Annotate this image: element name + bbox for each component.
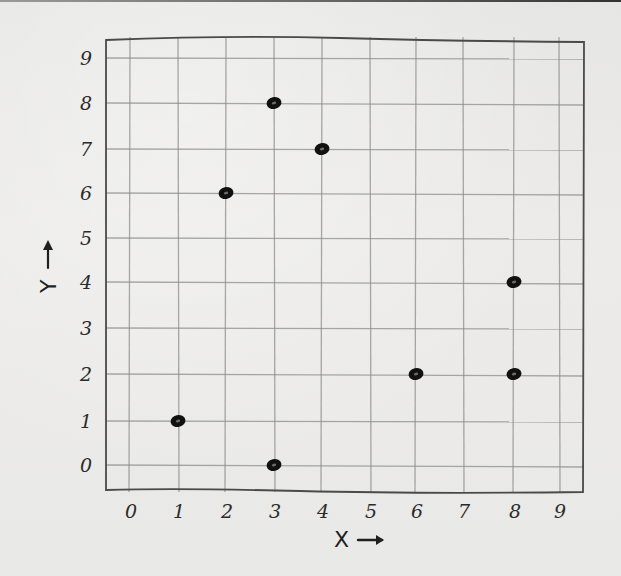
x-axis-arrow-icon bbox=[358, 535, 384, 545]
y-tick-labels: 0123456789 bbox=[79, 47, 93, 476]
data-point bbox=[169, 414, 186, 429]
x-axis-label: X bbox=[334, 527, 349, 552]
y-gridline bbox=[106, 465, 584, 467]
y-axis-arrow-icon bbox=[43, 240, 53, 268]
y-tick-label: 3 bbox=[80, 317, 92, 339]
x-gridline bbox=[225, 37, 226, 492]
y-tick-label: 7 bbox=[80, 138, 93, 160]
x-tick-label: 8 bbox=[509, 500, 521, 522]
x-tick-label: 3 bbox=[269, 500, 281, 522]
y-tick-label: 0 bbox=[80, 454, 92, 476]
x-gridline bbox=[129, 37, 130, 492]
y-gridline bbox=[106, 238, 584, 239]
y-tick-label: 1 bbox=[80, 410, 92, 432]
y-tick-label: 2 bbox=[79, 363, 92, 385]
y-gridline bbox=[106, 328, 584, 329]
chart-paper: 0123456789 0123456789 X Y bbox=[0, 0, 621, 576]
x-tick-label: 1 bbox=[173, 500, 185, 522]
x-gridline bbox=[415, 37, 416, 492]
x-tick-label: 2 bbox=[220, 500, 233, 522]
y-tick-label: 9 bbox=[80, 47, 92, 69]
x-tick-label: 0 bbox=[125, 500, 137, 522]
x-tick-label: 5 bbox=[365, 500, 377, 522]
data-point bbox=[407, 367, 424, 382]
x-tick-label: 9 bbox=[554, 500, 566, 522]
data-point bbox=[505, 367, 522, 382]
y-axis-label: Y bbox=[36, 279, 61, 294]
x-tick-label: 7 bbox=[458, 500, 471, 522]
y-tick-label: 5 bbox=[80, 227, 92, 249]
x-gridline bbox=[463, 37, 464, 492]
x-tick-labels: 0123456789 bbox=[125, 500, 566, 522]
x-gridline bbox=[370, 37, 371, 492]
x-gridline bbox=[321, 37, 322, 492]
y-axis-title: Y bbox=[36, 279, 61, 294]
data-point bbox=[505, 275, 522, 290]
data-point bbox=[313, 142, 330, 157]
y-tick-label: 6 bbox=[80, 182, 92, 204]
scatter-plot: 0123456789 0123456789 X Y bbox=[0, 0, 621, 576]
data-point bbox=[265, 458, 282, 473]
y-tick-label: 8 bbox=[80, 92, 92, 114]
x-axis-title: X bbox=[334, 527, 384, 552]
data-point bbox=[217, 186, 234, 201]
x-tick-label: 6 bbox=[411, 500, 423, 522]
y-tick-label: 4 bbox=[79, 271, 92, 293]
data-point bbox=[265, 96, 282, 111]
x-tick-label: 4 bbox=[316, 500, 329, 522]
